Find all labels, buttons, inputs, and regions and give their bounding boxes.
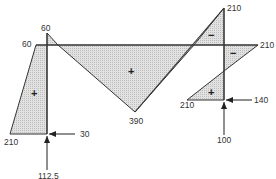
left-positive-region xyxy=(10,45,47,134)
label-apex-top: 60 xyxy=(41,23,51,33)
sign-right-lower-region: + xyxy=(208,86,214,98)
label-right-horizontal-force: 140 xyxy=(254,95,268,105)
sign-middle-region: + xyxy=(128,65,134,77)
label-left-horizontal-force: 30 xyxy=(80,129,90,139)
label-right-middle: 210 xyxy=(260,40,274,50)
bending-moment-diagram: 60 60 210 390 210 210 210 30 112.5 140 1… xyxy=(0,0,276,179)
label-left-bottom: 210 xyxy=(4,137,18,147)
sign-right-upper-region: − xyxy=(208,29,214,41)
sign-left-region: + xyxy=(31,87,37,99)
right-lower-positive-region xyxy=(187,71,224,100)
middle-positive-region xyxy=(58,45,194,112)
label-right-lower: 210 xyxy=(180,100,194,110)
label-middle-bottom: 390 xyxy=(129,116,143,126)
label-right-vertical-force: 100 xyxy=(217,135,231,145)
apex-small-region xyxy=(47,33,58,45)
label-left-vertical-force: 112.5 xyxy=(38,171,59,179)
label-left-top: 60 xyxy=(22,39,32,49)
label-right-top: 210 xyxy=(227,3,241,13)
sign-right-middle-region: − xyxy=(230,47,236,59)
